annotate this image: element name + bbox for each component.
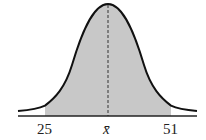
normal-curve-chart bbox=[0, 0, 206, 140]
tick-label-25: 25 bbox=[37, 122, 52, 137]
tick-label-51: 51 bbox=[163, 122, 178, 137]
tick-label-mean: x̄ bbox=[103, 122, 110, 137]
